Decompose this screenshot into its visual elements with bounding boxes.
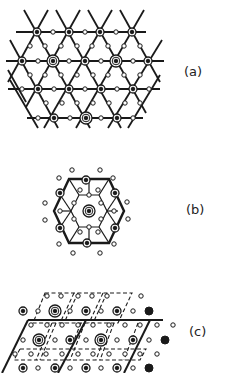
figure-canvas: [0, 0, 234, 373]
panel-b-hexagon: [43, 168, 130, 255]
panel-c-unit-cells: [2, 293, 175, 373]
panel-a-lattice: [6, 10, 164, 128]
panel-label-a: (a): [184, 64, 202, 79]
panel-label-c: (c): [189, 324, 206, 339]
panel-label-b: (b): [186, 202, 204, 217]
